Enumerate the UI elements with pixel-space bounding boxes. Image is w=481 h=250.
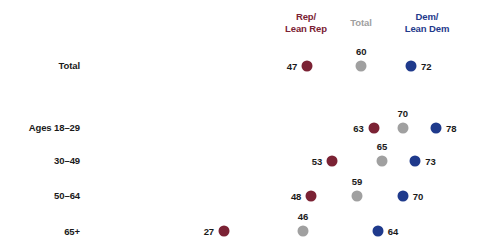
data-point-total xyxy=(297,226,308,237)
dot-plot-chart: Rep/ Lean Rep Total Dem/ Lean Dem Total4… xyxy=(0,0,481,250)
row-label: 30–49 xyxy=(0,155,80,166)
column-header-total: Total xyxy=(333,17,389,29)
data-point-dem xyxy=(431,123,442,134)
value-label-total: 70 xyxy=(398,108,408,119)
value-label-dem: 64 xyxy=(388,226,398,237)
data-point-dem xyxy=(397,191,408,202)
column-header-dem: Dem/ Lean Dem xyxy=(387,11,467,34)
row-label: 65+ xyxy=(0,226,80,237)
column-header-rep-line2: Lean Rep xyxy=(269,23,343,35)
data-point-dem xyxy=(406,61,417,72)
column-header-dem-line1: Dem/ xyxy=(387,11,467,23)
row-label: 50–64 xyxy=(0,190,80,201)
data-point-rep xyxy=(306,191,317,202)
data-point-total xyxy=(397,123,408,134)
data-point-rep xyxy=(368,123,379,134)
data-point-total xyxy=(356,61,367,72)
value-label-total: 59 xyxy=(352,176,362,187)
data-point-rep xyxy=(327,156,338,167)
data-point-rep xyxy=(219,226,230,237)
value-label-rep: 47 xyxy=(287,61,297,72)
value-label-rep: 48 xyxy=(291,191,301,202)
value-label-dem: 73 xyxy=(425,156,435,167)
value-label-rep: 53 xyxy=(312,156,322,167)
data-point-rep xyxy=(302,61,313,72)
value-label-total: 65 xyxy=(377,141,387,152)
data-point-dem xyxy=(410,156,421,167)
value-label-total: 46 xyxy=(298,211,308,222)
value-label-dem: 78 xyxy=(446,123,456,134)
column-header-rep: Rep/ Lean Rep xyxy=(269,11,343,34)
row-label: Ages 18–29 xyxy=(0,122,80,133)
value-label-dem: 72 xyxy=(421,61,431,72)
data-point-total xyxy=(352,191,363,202)
value-label-rep: 27 xyxy=(204,226,214,237)
data-point-dem xyxy=(372,226,383,237)
row-label: Total xyxy=(0,60,80,71)
data-point-total xyxy=(376,156,387,167)
column-header-total-label: Total xyxy=(333,17,389,29)
value-label-total: 60 xyxy=(356,46,366,57)
column-header-dem-line2: Lean Dem xyxy=(387,23,467,35)
value-label-rep: 63 xyxy=(353,123,363,134)
column-header-rep-line1: Rep/ xyxy=(269,11,343,23)
value-label-dem: 70 xyxy=(413,191,423,202)
